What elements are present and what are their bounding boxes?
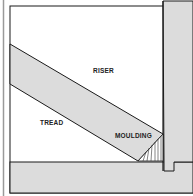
vertical-post	[163, 1, 193, 171]
riser-label: RISER	[93, 67, 114, 74]
tread-label: TREAD	[40, 119, 63, 126]
moulding-label: MOULDING	[115, 132, 152, 139]
stair-moulding-diagram: RISER TREAD MOULDING	[0, 0, 193, 196]
